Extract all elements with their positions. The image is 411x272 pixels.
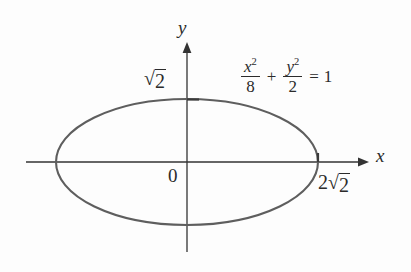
variable-x: x bbox=[244, 57, 252, 76]
radical-sign-icon: √ bbox=[328, 172, 339, 192]
x-axis-label: x bbox=[376, 146, 384, 165]
denominator: 2 bbox=[286, 77, 301, 95]
term-x-squared-over-8: x2 8 bbox=[241, 58, 260, 95]
exponent: 2 bbox=[252, 56, 257, 67]
origin-label: 0 bbox=[168, 166, 178, 185]
y-vertex-value-label: √ 2 bbox=[144, 68, 166, 91]
x-axis-arrow-icon bbox=[358, 158, 369, 167]
right-hand-side: 1 bbox=[324, 68, 333, 85]
numerator: y2 bbox=[283, 58, 302, 76]
plus-operator: + bbox=[267, 68, 277, 85]
ellipse-graph-figure bbox=[0, 0, 411, 272]
radicand: 2 bbox=[339, 173, 350, 195]
radicand: 2 bbox=[155, 69, 166, 91]
equals-operator: = bbox=[309, 68, 319, 85]
y-axis-label: y bbox=[178, 18, 186, 37]
y-axis-arrow-icon bbox=[183, 42, 192, 53]
exponent: 2 bbox=[294, 56, 299, 67]
variable-y: y bbox=[286, 57, 294, 76]
term-y-squared-over-2: y2 2 bbox=[283, 58, 302, 95]
radical-sign-icon: √ bbox=[144, 68, 155, 88]
coefficient: 2 bbox=[318, 171, 328, 193]
denominator: 8 bbox=[243, 77, 258, 95]
numerator: x2 bbox=[241, 58, 260, 76]
ellipse-equation: x2 8 + y2 2 = 1 bbox=[239, 58, 332, 95]
x-vertex-value-label: 2√2 bbox=[318, 172, 350, 195]
sqrt-2-radical: √2 bbox=[328, 172, 350, 195]
sqrt-2-radical: √ 2 bbox=[144, 68, 166, 91]
